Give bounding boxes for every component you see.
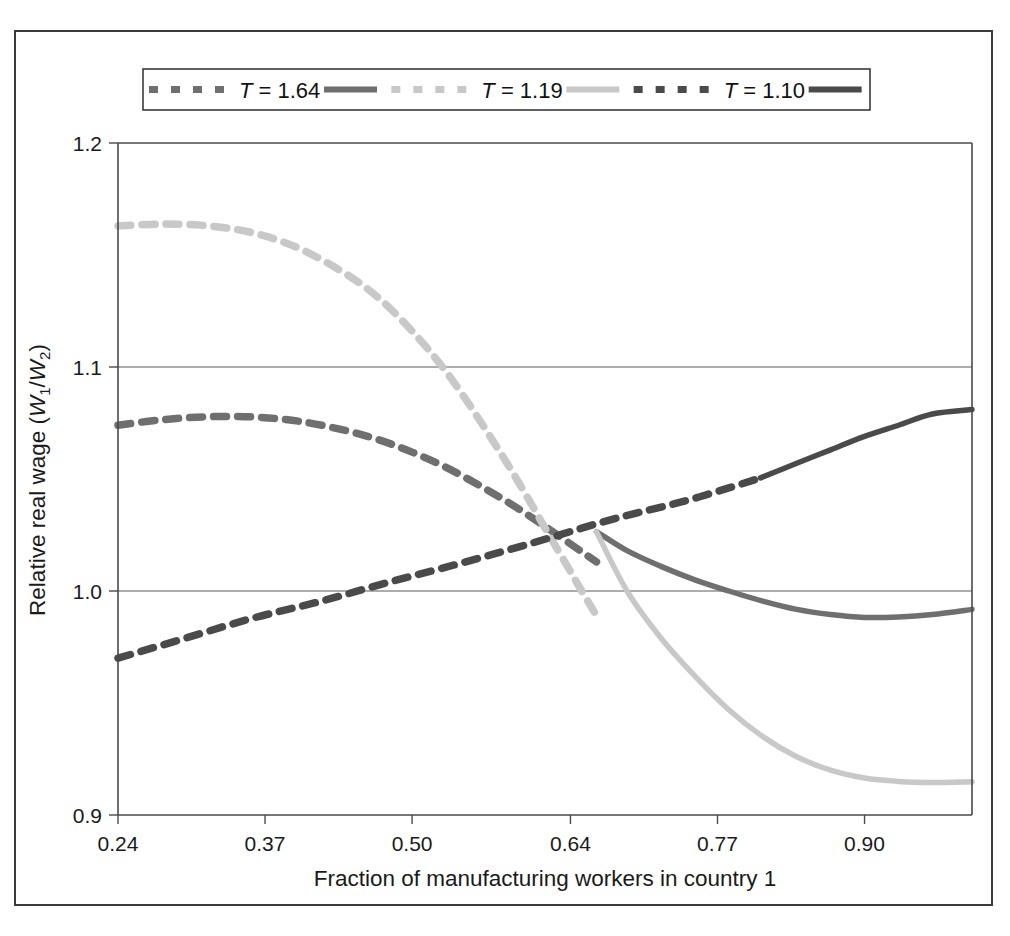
chart-legend: T = 1.64T = 1.19T = 1.10 (143, 69, 870, 110)
series-solid-branch (760, 410, 972, 478)
y-tick-label: 1.0 (73, 580, 102, 603)
x-tick-labels: 0.240.370.500.640.770.90 (98, 832, 885, 855)
series-3 (118, 410, 972, 659)
y-tick-label: 1.1 (73, 356, 102, 379)
x-tick-label: 0.90 (844, 832, 885, 855)
y-tick-labels: 0.91.01.11.2 (73, 132, 102, 827)
chart-canvas: T = 1.64T = 1.19T = 1.10 0.240.370.500.6… (0, 0, 1010, 936)
series-2 (118, 224, 972, 782)
series-solid-branch (596, 532, 972, 783)
y-axis-title: Relative real wage (W1/W2) (25, 344, 53, 616)
x-tick-label: 0.50 (392, 832, 433, 855)
x-tick-label: 0.77 (697, 832, 738, 855)
chart-axes (118, 143, 972, 815)
chart-gridlines (118, 367, 972, 591)
y-tick-label: 0.9 (73, 804, 102, 827)
x-tick-label: 0.64 (550, 832, 591, 855)
x-axis-title: Fraction of manufacturing workers in cou… (314, 866, 777, 891)
series-solid-branch (596, 532, 972, 618)
legend-entry-label: T = 1.10 (724, 78, 805, 103)
figure-root: T = 1.64T = 1.19T = 1.10 0.240.370.500.6… (0, 0, 1010, 936)
y-tick-label: 1.2 (73, 132, 102, 155)
chart-series-group (118, 224, 972, 782)
legend-entry-label: T = 1.64 (239, 78, 320, 103)
x-tick-label: 0.24 (98, 832, 139, 855)
svg-text:Relative real wage (W1/W2): Relative real wage (W1/W2) (25, 344, 53, 616)
x-tick-label: 0.37 (245, 832, 286, 855)
legend-entry-label: T = 1.19 (481, 78, 562, 103)
